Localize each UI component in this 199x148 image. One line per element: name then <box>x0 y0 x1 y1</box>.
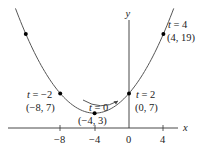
x-axis-label: x <box>182 122 188 133</box>
x-tick-label-m8: −8 <box>54 134 65 145</box>
label-xy-0: (−4, 3) <box>78 115 107 127</box>
point-t-m2 <box>58 91 62 95</box>
label-xy-4: (4, 19) <box>167 32 195 44</box>
label-t-m2: t = −2 <box>27 89 52 100</box>
label-xy-m2: (−8, 7) <box>26 102 55 114</box>
x-tick-label-4: 4 <box>160 134 166 145</box>
label-t-4: t = 4 <box>168 19 188 30</box>
x-tick-label-m4: −4 <box>89 134 101 145</box>
point-t-4 <box>161 32 165 36</box>
label-t-0: t = 0 <box>89 102 108 113</box>
point-t-m4 <box>24 32 28 36</box>
parametric-curve-chart: x y −8 −4 0 4 t = −2 (−8, 7) t = 0 (−4, … <box>0 0 199 148</box>
y-axis-label: y <box>125 8 131 19</box>
point-t-2 <box>127 91 131 95</box>
label-xy-2: (0, 7) <box>135 102 158 114</box>
x-tick-label-0: 0 <box>126 134 131 145</box>
label-t-2: t = 2 <box>136 89 155 100</box>
chart-svg: x y −8 −4 0 4 t = −2 (−8, 7) t = 0 (−4, … <box>0 0 199 148</box>
